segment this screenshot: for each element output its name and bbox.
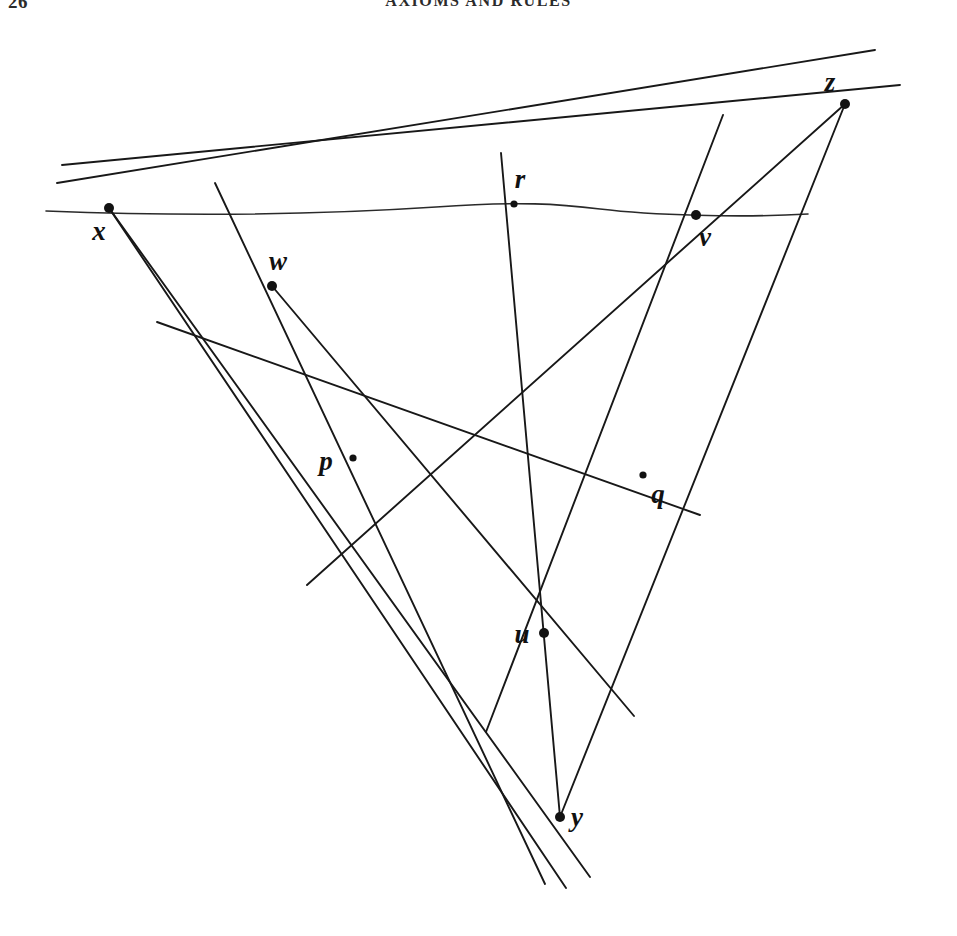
figure-line-w-through-u-to-lower-right — [272, 286, 634, 716]
point-dot-w — [267, 281, 277, 291]
point-label-w: w — [269, 246, 288, 276]
figure-line-x-through-w-to-z — [57, 50, 875, 183]
point-label-y: y — [568, 802, 584, 832]
figure-line-w-line-down-right-to-q — [157, 322, 700, 515]
point-label-p: p — [317, 446, 333, 476]
point-label-u: u — [514, 619, 529, 649]
point-label-z: z — [824, 67, 836, 97]
figure-line-z-down-through-v-to-y — [560, 104, 845, 817]
figure-line-z-down-left-through-w-to-p — [307, 104, 845, 585]
point-dot-p — [349, 454, 356, 461]
figure-line-w-line-to-z — [215, 183, 545, 884]
figure-line-x-to-z-upper — [62, 85, 900, 165]
running-head-title: AXIOMS AND RULES — [0, 0, 957, 10]
running-head: 26 AXIOMS AND RULES — [0, 0, 957, 18]
figure-line-x-through-p-to-y — [109, 208, 590, 877]
figure-points-group: xwrvzpquy — [91, 67, 850, 832]
figure-line-x-through-q-to-y — [109, 208, 566, 888]
point-dot-v — [691, 210, 701, 220]
figure-line-r-vertical-through-u-to-y — [501, 153, 560, 817]
point-label-v: v — [699, 222, 712, 252]
point-dot-u — [539, 628, 549, 638]
point-label-x: x — [91, 216, 106, 246]
point-label-q: q — [651, 479, 665, 509]
point-dot-x — [104, 203, 114, 213]
point-dot-y — [555, 812, 565, 822]
point-dot-r — [510, 200, 517, 207]
figure-canvas: xwrvzpquy — [0, 18, 957, 936]
geometry-figure: xwrvzpquy — [0, 18, 957, 936]
figure-lines-group — [46, 50, 900, 888]
point-dot-z — [840, 99, 850, 109]
point-dot-q — [639, 471, 646, 478]
point-label-r: r — [515, 164, 526, 194]
